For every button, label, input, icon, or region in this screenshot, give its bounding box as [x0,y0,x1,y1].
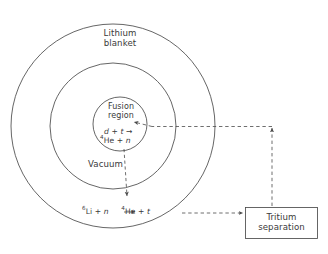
tritium-separation-label-line2: separation [258,222,305,232]
lithium-blanket-label: Lithium blanket [84,29,156,48]
tritium-separation-label-line1: Tritium [266,212,296,222]
fusion-reaction-products: 4He + n [100,137,131,146]
breeding-product-tritium: t [147,207,150,216]
lithium-blanket-circle [11,24,215,228]
breeding-reaction-equation: 6Li + n 4He + t [82,208,150,217]
neutron-path-arrow [124,149,127,196]
fusion-product-neutron: n [126,136,131,145]
breeding-product-helium: He [125,207,136,216]
fusion-region-label: Fusion region [95,103,147,121]
lithium-blanket-label-line1: Lithium [104,28,137,38]
tritium-return-into-fusion-arrow [134,122,152,127]
fusion-region-label-line1: Fusion [108,102,134,111]
vacuum-circle [50,63,176,189]
figure-canvas: Lithium blanket Fusion region d + t → 4H… [0,0,328,254]
vacuum-label: Vacuum [88,160,123,170]
tritium-separation-label: Tritium separation [245,213,318,232]
fusion-product-helium: He [104,136,115,145]
lithium-blanket-label-line2: blanket [104,38,137,48]
fusion-region-label-line2: region [108,111,134,120]
